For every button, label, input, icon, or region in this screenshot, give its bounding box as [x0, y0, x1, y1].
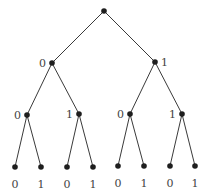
tree-node-n000: [12, 164, 18, 170]
tree-edge: [79, 114, 93, 167]
node-label: 0: [39, 57, 46, 70]
tree-node-n101: [141, 163, 147, 169]
node-label: 1: [192, 177, 199, 190]
node-label: 0: [64, 178, 71, 191]
tree-node-n001: [38, 164, 44, 170]
tree-node-n10: [127, 111, 133, 117]
tree-node-n100: [115, 163, 121, 169]
tree-edge: [130, 114, 144, 166]
node-label: 1: [161, 56, 168, 69]
tree-edge: [52, 11, 104, 63]
tree-node-n0: [49, 60, 55, 66]
tree-node-n110: [167, 163, 173, 169]
tree-edge: [170, 114, 182, 166]
tree-node-n00: [24, 112, 30, 118]
node-label: 1: [169, 108, 176, 121]
node-label: 1: [141, 177, 148, 190]
tree-edge: [118, 114, 130, 166]
tree-node-n011: [90, 164, 96, 170]
node-label: 0: [12, 178, 19, 191]
tree-node-n11: [179, 111, 185, 117]
tree-edge: [15, 115, 27, 167]
tree-edge: [104, 11, 155, 62]
tree-edge: [27, 63, 52, 115]
node-label: 0: [117, 108, 124, 121]
tree-node-n010: [64, 164, 70, 170]
tree-edge: [67, 114, 79, 167]
tree-node-n1: [152, 59, 158, 65]
binary-tree-diagram: 01010101010101: [0, 0, 208, 192]
node-label: 1: [38, 178, 45, 191]
tree-labels: 01010101010101: [12, 56, 199, 191]
tree-node-root: [101, 8, 107, 14]
tree-edge: [155, 62, 182, 114]
tree-node-n01: [76, 111, 82, 117]
node-label: 0: [167, 177, 174, 190]
node-label: 1: [90, 178, 97, 191]
tree-edge: [52, 63, 79, 114]
node-label: 0: [115, 177, 122, 190]
node-label: 0: [14, 109, 21, 122]
tree-edge: [182, 114, 195, 166]
tree-node-n111: [192, 163, 198, 169]
tree-edge: [130, 62, 155, 114]
node-label: 1: [66, 108, 73, 121]
tree-edges: [15, 11, 195, 167]
tree-edge: [27, 115, 41, 167]
